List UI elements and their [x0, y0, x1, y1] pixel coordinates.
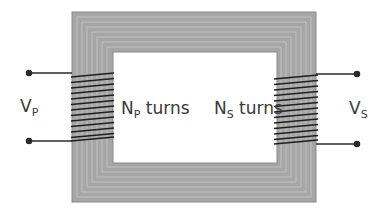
primary-turns-symbol: N	[121, 98, 134, 118]
secondary-turns-subscript: S	[227, 108, 234, 121]
primary-voltage-subscript: P	[32, 106, 39, 119]
primary-turns-suffix: turns	[140, 98, 189, 118]
primary-turns-label: NP turns	[121, 100, 190, 120]
secondary-terminal-bottom	[354, 141, 359, 146]
primary-voltage-label: VP	[20, 98, 38, 118]
primary-terminal-bottom	[26, 138, 31, 143]
secondary-turns-suffix: turns	[234, 98, 283, 118]
secondary-turns-symbol: N	[214, 98, 227, 118]
secondary-turns-label: NS turns	[214, 100, 283, 120]
transformer-diagram	[0, 0, 383, 212]
primary-terminal-top	[26, 70, 31, 75]
secondary-voltage-subscript: S	[361, 108, 368, 121]
secondary-voltage-symbol: V	[349, 98, 361, 118]
secondary-terminal-top	[354, 71, 359, 76]
primary-voltage-symbol: V	[20, 96, 32, 116]
secondary-voltage-label: VS	[349, 100, 368, 120]
